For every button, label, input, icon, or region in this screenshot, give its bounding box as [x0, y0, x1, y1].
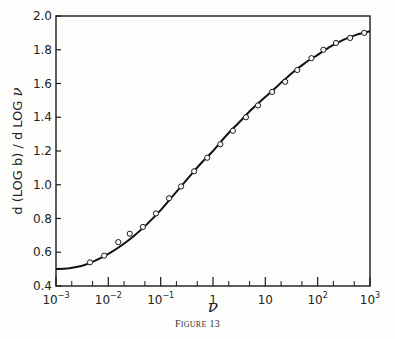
data-point: [127, 231, 132, 236]
figure-caption: FIGURE 13: [0, 318, 395, 329]
data-point: [243, 115, 248, 120]
y-tick-label: 1.4: [33, 110, 52, 124]
theory-curve: [56, 31, 370, 269]
data-point: [283, 79, 288, 84]
data-point: [309, 56, 314, 61]
data-point: [178, 184, 183, 189]
x-tick-label: 102: [307, 291, 327, 307]
y-tick-label: 0.4: [33, 279, 52, 293]
data-point: [116, 240, 121, 245]
data-point: [270, 89, 275, 94]
data-point: [87, 260, 92, 265]
data-point: [140, 224, 145, 229]
y-axis-ticks: 0.40.60.81.01.21.41.61.82.0: [33, 9, 61, 293]
x-tick-label: 10−3: [42, 291, 69, 307]
data-point: [205, 155, 210, 160]
data-point: [230, 128, 235, 133]
x-axis-title: ν: [208, 296, 218, 316]
data-point: [102, 253, 107, 258]
chart: 0.40.60.81.01.21.41.61.82.0 10−310−210−1…: [0, 0, 395, 339]
data-point: [321, 47, 326, 52]
y-tick-label: 0.6: [33, 245, 52, 259]
y-tick-label: 1.6: [33, 77, 52, 91]
y-tick-label: 1.0: [33, 178, 52, 192]
x-tick-label: 10−1: [147, 291, 174, 307]
data-point: [153, 211, 158, 216]
data-point: [362, 30, 367, 35]
y-tick-label: 2.0: [33, 9, 52, 23]
data-point: [166, 196, 171, 201]
data-point: [218, 142, 223, 147]
data-points: [87, 30, 366, 265]
data-point: [255, 103, 260, 108]
data-point: [348, 35, 353, 40]
y-tick-label: 0.8: [33, 212, 52, 226]
x-tick-label: 103: [360, 291, 380, 307]
y-tick-label: 1.2: [33, 144, 52, 158]
data-point: [333, 40, 338, 45]
data-point: [192, 169, 197, 174]
x-tick-label: 10: [258, 293, 273, 307]
y-axis-title: d (LOG b) / d LOG ν: [8, 87, 26, 214]
y-tick-label: 1.8: [33, 43, 52, 57]
data-point: [295, 67, 300, 72]
x-tick-label: 10−2: [95, 291, 122, 307]
